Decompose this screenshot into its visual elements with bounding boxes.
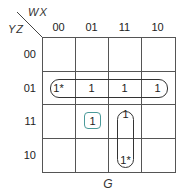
cell-00-00 (42, 37, 75, 71)
group-loop-row-01 (50, 79, 168, 98)
column-variables-label: WX (28, 6, 48, 18)
row-label-10: 10 (12, 149, 36, 161)
cell-10-00 (42, 138, 75, 172)
function-name-label: G (98, 177, 118, 191)
cell-00-11 (108, 37, 141, 71)
row-label-01: 01 (12, 82, 36, 94)
row-label-11: 11 (12, 115, 36, 127)
cell-11-10 (141, 104, 174, 138)
row-variables-label: YZ (8, 23, 24, 35)
group-loop-col-11 (117, 111, 134, 168)
column-header-00: 00 (42, 21, 75, 33)
group-loop-single-teal (84, 112, 101, 129)
cell-10-01 (75, 138, 108, 172)
column-header-11: 11 (108, 21, 141, 33)
cell-00-10 (141, 37, 174, 71)
cell-00-01 (75, 37, 108, 71)
row-label-00: 00 (12, 48, 36, 60)
column-header-10: 10 (141, 21, 174, 33)
cell-10-10 (141, 138, 174, 172)
cell-11-00 (42, 104, 75, 138)
column-header-01: 01 (75, 21, 108, 33)
